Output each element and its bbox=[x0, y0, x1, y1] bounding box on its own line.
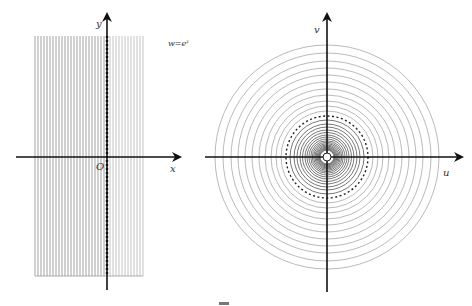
caption-glyph bbox=[219, 302, 229, 305]
origin-hole bbox=[323, 153, 331, 161]
v-axis-label: v bbox=[314, 24, 320, 35]
conformal-map-figure: y O x w=ez v u bbox=[0, 0, 472, 306]
mapping-label: w=ez bbox=[168, 38, 189, 48]
origin-label: O bbox=[96, 161, 104, 172]
x-axis-label: x bbox=[170, 163, 176, 174]
u-axis-label: u bbox=[443, 167, 449, 178]
y-axis-label: y bbox=[95, 18, 102, 29]
vertical-grid-lines bbox=[35, 36, 143, 276]
